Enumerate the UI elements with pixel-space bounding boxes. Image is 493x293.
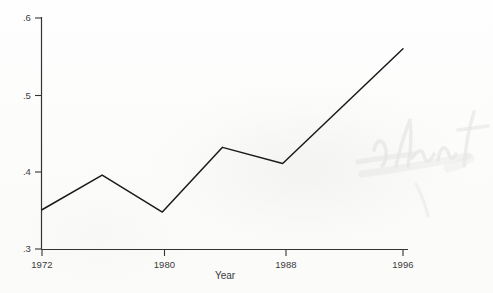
chart-figure: .6 .5 .4 .3 1972 1980 1988 1996 Year [0, 0, 493, 293]
y-tick-label-0.4: .4 [10, 167, 31, 177]
y-tick-label-0.3: .3 [10, 244, 31, 254]
x-axis-ticks [42, 250, 403, 257]
y-tick-label-0.6: .6 [10, 13, 31, 23]
y-tick-label-0.5: .5 [10, 91, 31, 101]
x-tick-label-1996: 1996 [383, 260, 423, 270]
x-tick-label-1980: 1980 [145, 260, 185, 270]
x-axis-title: Year [195, 271, 255, 281]
x-tick-label-1988: 1988 [266, 260, 306, 270]
x-tick-label-1972: 1972 [22, 260, 62, 270]
data-series-line [42, 49, 403, 212]
y-axis-ticks [35, 18, 42, 249]
plot-area [0, 0, 493, 293]
